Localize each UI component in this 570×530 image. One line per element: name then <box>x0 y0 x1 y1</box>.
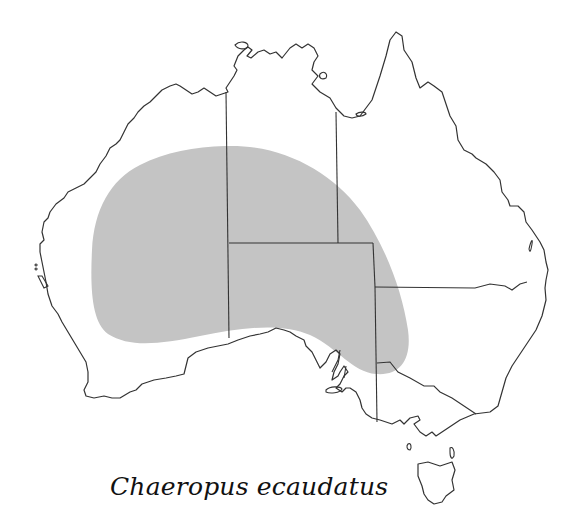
fraser-island <box>529 241 532 252</box>
species-caption: Chaeropus ecaudatus <box>110 472 388 501</box>
flinders-island <box>450 447 454 458</box>
tasmania <box>418 462 455 504</box>
australia-distribution-map <box>0 0 570 530</box>
melville-island <box>235 42 248 49</box>
king-island <box>407 444 411 450</box>
species-range-shading <box>91 146 408 374</box>
groote-eylandt <box>319 72 326 78</box>
